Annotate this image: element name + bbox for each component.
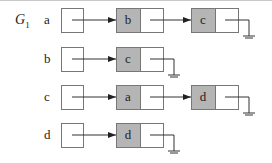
list-node: c (192, 9, 256, 39)
vertex-label: d (44, 127, 51, 142)
vertex-label: b (44, 51, 51, 66)
row-b: bc (44, 48, 180, 78)
adjacency-list-diagram: G1 abcbccaddd (0, 0, 272, 163)
diagram-svg: G1 abcbccaddd (0, 0, 272, 163)
row-c: cad (44, 86, 255, 116)
list-node: c (117, 48, 181, 78)
row-d: dd (44, 124, 180, 154)
node-label: a (125, 89, 131, 104)
node-label: d (125, 127, 132, 142)
list-node: d (117, 124, 181, 154)
node-label: d (200, 89, 207, 104)
vertex-label: c (44, 89, 50, 104)
node-label: b (125, 12, 132, 27)
row-a: abc (44, 9, 255, 39)
node-label: c (200, 12, 206, 27)
graph-title: G1 (15, 12, 30, 30)
list-node: d (192, 86, 256, 116)
node-label: c (125, 51, 131, 66)
vertex-label: a (44, 12, 50, 27)
